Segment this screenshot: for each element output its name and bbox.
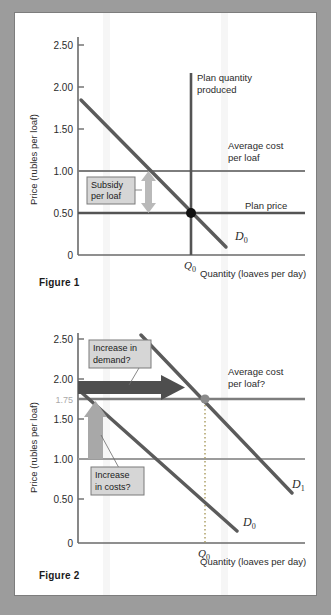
figure-1: 2.50 2.00 1.50 1.00 0.50 0 Price (rubles… xyxy=(15,19,318,309)
average-cost-label-line2: per loaf? xyxy=(228,378,265,389)
curve-label-d0: D0 xyxy=(234,229,248,245)
y-tick-label: 0 xyxy=(67,250,73,261)
increase-demand-arrow xyxy=(78,375,185,400)
y-tick-label: 2.00 xyxy=(54,374,74,385)
curve-label-d1: D1 xyxy=(291,477,305,493)
figure-2: 2.50 2.00 1.75 1.50 1.00 0.50 0 Price (r… xyxy=(15,313,318,595)
demand-curve-d1 xyxy=(141,335,292,493)
y-tick-label: 2.50 xyxy=(54,334,74,345)
average-cost-label-line1: Average cost xyxy=(228,140,284,151)
y-tick-label: 1.50 xyxy=(54,124,74,135)
figure-1-caption: Figure 1 xyxy=(39,277,80,288)
y-tick-label: 0 xyxy=(67,538,73,549)
equilibrium-dot xyxy=(186,208,196,218)
curve-label-d0: D0 xyxy=(242,515,256,531)
y-axis-title: Price (rubles per loaf) xyxy=(28,402,39,493)
page-sheet: 2.50 2.00 1.50 1.00 0.50 0 Price (rubles… xyxy=(14,12,317,596)
increase-demand-line2: demand? xyxy=(93,355,131,365)
y-tick-label: 1.50 xyxy=(54,414,74,425)
x-tick-label-q0: Q0 xyxy=(184,259,196,274)
figure-2-caption: Figure 2 xyxy=(39,570,80,581)
increase-costs-callout: Increase in costs? xyxy=(91,467,144,495)
x-axis-title: Quantity (loaves per day) xyxy=(200,556,306,567)
average-cost-label-line2: per loaf xyxy=(228,152,260,163)
average-cost-label-line1: Average cost xyxy=(228,366,284,377)
increase-costs-line2: in costs? xyxy=(95,482,131,492)
plan-price-label: Plan price xyxy=(245,200,287,211)
y-tick-label: 2.50 xyxy=(54,40,74,51)
subsidy-callout-line2: per loaf xyxy=(91,191,122,201)
subsidy-double-arrow xyxy=(141,171,156,213)
increase-costs-arrow xyxy=(84,401,107,459)
y-tick-label: 2.00 xyxy=(54,82,74,93)
y-tick-label: 1.00 xyxy=(54,454,74,465)
y-tick-label: 0.50 xyxy=(54,208,74,219)
plan-quantity-label-line2: produced xyxy=(197,84,237,95)
increase-demand-line1: Increase in xyxy=(93,343,137,353)
subsidy-callout-line1: Subsidy xyxy=(91,180,124,190)
x-axis-title: Quantity (loaves per day) xyxy=(200,268,306,279)
figure-2-chart: 2.50 2.00 1.75 1.50 1.00 0.50 0 Price (r… xyxy=(15,313,318,568)
subsidy-callout: Subsidy per loaf xyxy=(87,177,135,204)
increase-demand-callout: Increase in demand? xyxy=(89,340,151,368)
new-equilibrium-dot xyxy=(200,394,209,403)
demand-curve-d0 xyxy=(81,100,226,247)
y-tick-label-highlight: 1.75 xyxy=(55,395,73,405)
figure-1-chart: 2.50 2.00 1.50 1.00 0.50 0 Price (rubles… xyxy=(15,19,318,279)
plan-quantity-label-line1: Plan quantity xyxy=(197,72,252,83)
y-axis-title: Price (rubles per loaf) xyxy=(28,114,39,205)
increase-costs-leader-line xyxy=(101,435,119,468)
y-tick-label: 1.00 xyxy=(54,166,74,177)
y-tick-label: 0.50 xyxy=(54,494,74,505)
increase-costs-line1: Increase xyxy=(95,470,130,480)
